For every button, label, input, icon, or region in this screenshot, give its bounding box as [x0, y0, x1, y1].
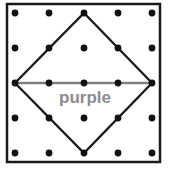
peg-dot-r5-c1 [12, 150, 19, 157]
purple-label: purple [59, 88, 111, 107]
peg-dot-r3-c4 [115, 80, 122, 87]
peg-dot-r2-c3 [81, 45, 88, 52]
peg-dot-r1-c2 [46, 10, 53, 17]
peg-dot-r4-c3 [81, 115, 88, 122]
peg-dot-r2-c2 [46, 45, 53, 52]
peg-dot-r1-c1 [12, 10, 19, 17]
peg-dot-r3-c1 [12, 80, 19, 87]
peg-dot-r2-c4 [115, 45, 122, 52]
peg-dot-r3-c2 [46, 80, 53, 87]
peg-dot-r3-c3 [81, 80, 88, 87]
peg-dot-r5-c3 [81, 150, 88, 157]
peg-dot-r4-c1 [12, 115, 19, 122]
peg-dot-r5-c4 [115, 150, 122, 157]
peg-dot-r5-c2 [46, 150, 53, 157]
peg-dot-r3-c5 [149, 80, 156, 87]
peg-dot-r1-c5 [149, 10, 156, 17]
peg-dot-r5-c5 [149, 150, 156, 157]
peg-dot-r2-c1 [12, 45, 19, 52]
peg-dot-r4-c4 [115, 115, 122, 122]
peg-dot-r4-c2 [46, 115, 53, 122]
peg-dot-r1-c3 [81, 10, 88, 17]
peg-dot-r4-c5 [149, 115, 156, 122]
peg-dot-r2-c5 [149, 45, 156, 52]
geoboard-svg: purple [0, 0, 170, 178]
peg-dot-r1-c4 [115, 10, 122, 17]
geoboard-figure: purple [0, 0, 170, 178]
